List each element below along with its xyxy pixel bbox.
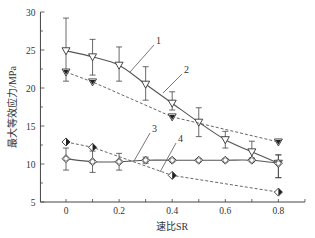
leader-line [163, 74, 182, 93]
y-tick-label: 5 [31, 198, 36, 208]
series-layer [62, 18, 282, 196]
y-tick-label: 10 [26, 160, 36, 170]
y-tick-label: 20 [26, 84, 36, 94]
x-tick-label: 0.4 [166, 206, 178, 216]
series-1 [62, 18, 282, 178]
leader-line [130, 45, 154, 72]
y-axis-title: 最大等效应力/MPa [6, 66, 18, 148]
diamond-marker [89, 158, 97, 166]
curve-label-4: 4 [178, 133, 183, 144]
y-tick-label: 15 [26, 122, 36, 132]
x-axis-title: 速比SR [156, 221, 189, 232]
diamond-marker [248, 156, 256, 164]
diamond-marker [62, 155, 70, 163]
diamond-marker [195, 156, 203, 164]
x-tick-label: 0.6 [219, 206, 231, 216]
diamond-marker [168, 156, 176, 164]
axes: 00.20.40.60.851015202530 [26, 8, 305, 217]
diamond-fill [93, 143, 97, 151]
triangle-marker [248, 149, 256, 156]
x-tick-label: 0 [64, 206, 69, 216]
diamond-marker [115, 158, 123, 166]
triangle-marker [115, 62, 123, 69]
triangle-marker [221, 137, 229, 144]
curve-labels: 1234 [130, 35, 189, 172]
x-tick-label: 0.2 [113, 206, 125, 216]
curve-label-3: 3 [152, 123, 157, 134]
diamond-fill [66, 138, 70, 146]
series-4 [62, 138, 282, 196]
triangle-marker [168, 100, 176, 107]
curve-label-2: 2 [184, 64, 189, 75]
y-tick-label: 30 [26, 8, 36, 18]
diamond-fill [278, 188, 282, 196]
y-tick-label: 25 [26, 46, 36, 56]
curve-label-1: 1 [156, 35, 161, 46]
x-tick-label: 0.8 [272, 206, 284, 216]
diamond-marker [221, 156, 229, 164]
triangle-marker [142, 81, 150, 88]
chart: 00.20.40.60.851015202530 1234 最大等效应力/MPa… [0, 0, 315, 238]
diamond-fill [172, 171, 176, 179]
